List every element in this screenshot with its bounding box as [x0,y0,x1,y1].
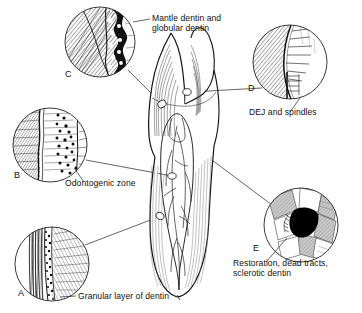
inset-label-b: B [14,170,20,180]
inset-b [13,108,88,182]
marker-d-site [183,89,191,96]
inset-c [65,7,136,77]
caption-b: Odontogenic zone [65,178,136,188]
marker-b-site [168,173,176,179]
caption-d: DEJ and spindles [249,107,317,117]
caption-e: Restoration, dead tracts, sclerotic dent… [233,258,328,279]
caption-a: Granular layer of dentin [78,291,169,301]
caption-c: Mantle dentin and globular dentin [152,13,221,34]
inset-label-d: D [248,83,255,93]
inset-d [253,25,327,99]
inset-label-c: C [65,69,72,79]
inset-label-a: A [18,288,24,298]
inset-label-e: E [253,243,259,253]
inset-e [264,188,338,262]
